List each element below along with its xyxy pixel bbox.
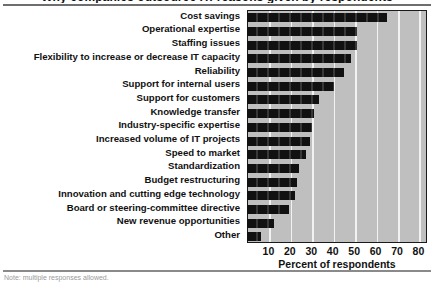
- bar: [247, 232, 261, 241]
- bar-texture: [247, 54, 351, 63]
- bar: [247, 27, 358, 36]
- bar-texture: [247, 27, 358, 36]
- chart-title-text: Why companies outsource IT: reasons give…: [0, 0, 434, 3]
- bar: [247, 82, 334, 91]
- category-label: Industry-specific expertise: [118, 119, 240, 131]
- source-note-clipped: Note: multiple responses allowed.: [4, 273, 304, 282]
- gridline-70: [398, 11, 400, 242]
- bottom-rule-divider: [3, 270, 431, 272]
- bar: [247, 95, 319, 104]
- category-label: Increased volume of IT projects: [96, 133, 240, 145]
- bar-texture: [247, 137, 311, 146]
- category-label: Other: [214, 229, 240, 241]
- bar: [247, 137, 311, 146]
- bar-texture: [247, 13, 388, 22]
- category-label: Budget restructuring: [145, 174, 240, 186]
- bar: [247, 191, 296, 200]
- bar-texture: [247, 219, 274, 228]
- category-label: Support for internal users: [122, 78, 240, 90]
- bar-texture: [247, 109, 315, 118]
- category-label: Innovation and cutting edge technology: [58, 188, 240, 200]
- category-label: Board or steering-committee directive: [67, 202, 240, 214]
- category-label: Operational expertise: [142, 23, 240, 35]
- bar-texture: [247, 178, 298, 187]
- category-label: Knowledge transfer: [150, 106, 240, 118]
- chart-plot-region: Cost savingsOperational expertiseStaffin…: [0, 9, 434, 267]
- category-axis-labels: Cost savingsOperational expertiseStaffin…: [0, 9, 244, 243]
- bar-texture: [247, 191, 296, 200]
- bar-texture: [247, 164, 300, 173]
- gridline-60: [377, 11, 379, 242]
- bar: [247, 164, 300, 173]
- x-tick-label-50: 50: [348, 245, 360, 258]
- category-label: Standardization: [168, 160, 240, 172]
- bar: [247, 205, 289, 214]
- bar: [247, 68, 345, 77]
- x-tick-label-20: 20: [284, 245, 296, 258]
- bar: [247, 219, 274, 228]
- x-tick-label-80: 80: [413, 245, 425, 258]
- category-label: Flexibility to increase or decrease IT c…: [34, 51, 240, 63]
- x-tick-label-10: 10: [263, 245, 275, 258]
- source-note-text: Note: multiple responses allowed.: [4, 273, 304, 282]
- bar: [247, 13, 388, 22]
- chart-title-clipped: Why companies outsource IT: reasons give…: [0, 0, 434, 3]
- x-tick-label-30: 30: [305, 245, 317, 258]
- bar-texture: [247, 68, 345, 77]
- x-tick-label-40: 40: [327, 245, 339, 258]
- category-label: Cost savings: [180, 10, 240, 22]
- bar: [247, 150, 306, 159]
- category-label: Support for customers: [137, 92, 240, 104]
- bar-texture: [247, 95, 319, 104]
- bar-texture: [247, 41, 358, 50]
- bar: [247, 54, 351, 63]
- bar-texture: [247, 205, 289, 214]
- bar: [247, 123, 313, 132]
- category-label: New revenue opportunities: [117, 215, 240, 227]
- bar-texture: [247, 232, 261, 241]
- chart-figure: Why companies outsource IT: reasons give…: [0, 0, 434, 282]
- x-tick-label-70: 70: [391, 245, 403, 258]
- x-tick-label-60: 60: [370, 245, 382, 258]
- bar: [247, 109, 315, 118]
- top-rule-divider: [3, 4, 431, 6]
- x-axis-tick-labels: 1020304050607080: [247, 245, 427, 259]
- category-label: Speed to market: [165, 147, 240, 159]
- plot-area: [247, 10, 427, 243]
- bar: [247, 41, 358, 50]
- bar-texture: [247, 150, 306, 159]
- category-label: Staffing issues: [172, 37, 240, 49]
- bar-texture: [247, 123, 313, 132]
- category-label: Reliability: [195, 65, 240, 77]
- bar-texture: [247, 82, 334, 91]
- bar: [247, 178, 298, 187]
- gridline-80: [419, 11, 421, 242]
